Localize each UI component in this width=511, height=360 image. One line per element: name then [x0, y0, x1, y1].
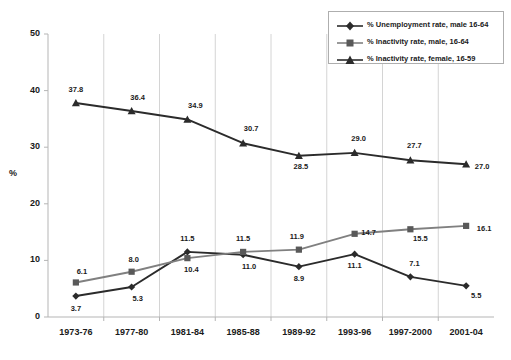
y-axis-title: %: [9, 168, 17, 178]
line-chart: % 01020304050 1973-761977-801981-841985-…: [0, 0, 511, 360]
data-label: 7.1: [397, 259, 431, 268]
legend-item[interactable]: % Unemployment rate, male 16-64: [335, 17, 488, 31]
data-label: 3.7: [59, 304, 93, 313]
triangle-marker: [335, 52, 365, 64]
y-tick-label: 20: [14, 198, 40, 208]
data-label: 27.7: [397, 141, 431, 150]
chart-legend: % Unemployment rate, male 16-64 % Inacti…: [328, 11, 504, 64]
data-label: 34.9: [178, 101, 212, 110]
y-tick-label: 40: [14, 85, 40, 95]
diamond-marker: [335, 18, 365, 30]
data-label: 5.5: [459, 291, 493, 300]
legend-item[interactable]: % Inactivity rate, male, 16-64: [335, 34, 469, 48]
legend-label: % Inactivity rate, female, 16-59: [367, 54, 475, 63]
data-label: 11.5: [170, 234, 204, 243]
y-tick-label: 30: [14, 141, 40, 151]
data-label: 6.1: [65, 267, 99, 276]
y-tick-label: 10: [14, 254, 40, 264]
data-label: 11.5: [226, 234, 260, 243]
data-label: 11.0: [232, 262, 266, 271]
data-label: 15.5: [403, 234, 437, 243]
x-tick-label: 2001-04: [431, 327, 501, 337]
data-label: 14.7: [352, 228, 386, 237]
axis-lines: [44, 34, 494, 321]
legend-label: % Inactivity rate, male, 16-64: [367, 37, 469, 46]
data-label: 8.0: [117, 255, 151, 264]
data-label: 11.9: [280, 232, 314, 241]
data-label: 37.8: [59, 85, 93, 94]
data-label: 36.4: [121, 93, 155, 102]
data-label: 27.0: [465, 162, 499, 171]
legend-label: % Unemployment rate, male 16-64: [367, 20, 488, 29]
data-label: 11.1: [338, 261, 372, 270]
data-label: 30.7: [234, 124, 268, 133]
data-label: 10.4: [174, 265, 208, 274]
gridlines: [104, 34, 439, 317]
y-tick-label: 0: [14, 311, 40, 321]
legend-item[interactable]: % Inactivity rate, female, 16-59: [335, 51, 475, 65]
data-label: 5.3: [121, 294, 155, 303]
data-label: 8.9: [282, 274, 316, 283]
data-label: 28.5: [284, 162, 318, 171]
square-marker: [335, 35, 365, 47]
data-label: 16.1: [467, 224, 501, 233]
y-tick-label: 50: [14, 28, 40, 38]
data-label: 29.0: [342, 134, 376, 143]
